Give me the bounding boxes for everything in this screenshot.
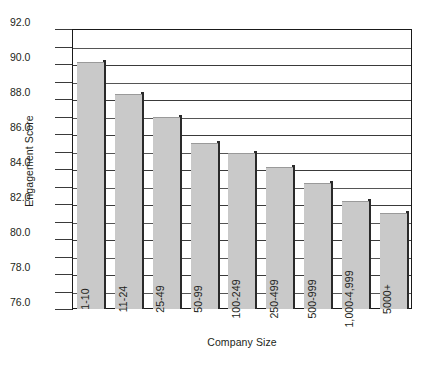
- x-axis-tick-label: 100-249: [230, 279, 242, 318]
- y-axis-tick: [55, 64, 72, 65]
- bar[interactable]: [191, 143, 218, 309]
- y-axis-tick: [55, 309, 72, 310]
- y-axis-tick-minor: [55, 152, 72, 153]
- y-axis-tick: [55, 274, 72, 275]
- y-axis-tick-label: 86.0: [10, 121, 50, 133]
- bars-group: 1-1011-2425-4950-99100-249250-499500-999…: [72, 29, 412, 309]
- y-axis-tick-minor: [55, 117, 72, 118]
- bar-group[interactable]: 11-24: [110, 29, 148, 309]
- y-axis-tick-minor: [55, 222, 72, 223]
- x-axis-tick-label: 500-999: [306, 279, 318, 318]
- y-axis-tick-label: 76.0: [10, 296, 50, 308]
- bar-group[interactable]: 100-249: [223, 29, 261, 309]
- bar-group[interactable]: 1-10: [72, 29, 110, 309]
- y-axis-tick-label: 82.0: [10, 191, 50, 203]
- x-axis-title: Company Size: [72, 336, 412, 348]
- y-axis-tick-minor: [55, 47, 72, 48]
- y-axis-tick: [55, 99, 72, 100]
- bar-group[interactable]: 50-99: [185, 29, 223, 309]
- y-axis-tick-label: 84.0: [10, 156, 50, 168]
- y-axis-tick-label: 88.0: [10, 86, 50, 98]
- y-axis-tick-minor: [55, 257, 72, 258]
- y-axis-tick-minor: [55, 82, 72, 83]
- bar-group[interactable]: 250-499: [261, 29, 299, 309]
- x-axis-tick-label: 25-49: [154, 285, 166, 312]
- bar-group[interactable]: 1,000-4,999: [336, 29, 374, 309]
- y-axis-tick-minor: [55, 292, 72, 293]
- y-axis-tick: [55, 239, 72, 240]
- x-axis-tick-label: 11-24: [117, 286, 129, 313]
- bar[interactable]: [77, 62, 104, 309]
- y-axis-tick-label: 90.0: [10, 51, 50, 63]
- x-axis-tick-label: 1-10: [79, 288, 91, 309]
- x-axis-tick-label: 5000+: [381, 284, 393, 314]
- bar[interactable]: [115, 94, 142, 309]
- bar-group[interactable]: 25-49: [148, 29, 186, 309]
- x-axis-tick-label: 50-99: [192, 285, 204, 312]
- bar-group[interactable]: 500-999: [299, 29, 337, 309]
- bar-chart: Engagement Score 92.090.088.086.084.082.…: [0, 0, 431, 365]
- x-axis-tick-label: 1,000-4,999: [343, 270, 355, 327]
- y-axis-tick: [55, 134, 72, 135]
- y-axis-tick-label: 80.0: [10, 226, 50, 238]
- bar-group[interactable]: 5000+: [374, 29, 412, 309]
- y-axis-tick-label: 78.0: [10, 261, 50, 273]
- x-axis-tick-label: 250-499: [268, 279, 280, 318]
- y-axis-tick-minor: [55, 187, 72, 188]
- y-axis-tick: [55, 29, 72, 30]
- y-axis-tick: [55, 169, 72, 170]
- y-axis-tick-label: 92.0: [10, 16, 50, 28]
- y-axis-tick: [55, 204, 72, 205]
- bar[interactable]: [153, 117, 180, 310]
